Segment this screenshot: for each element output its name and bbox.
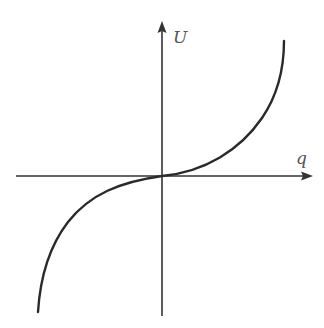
diagram-figure: U q <box>0 0 324 328</box>
q-axis-label: q <box>296 150 307 167</box>
u-axis-label: U <box>173 29 187 46</box>
plot-canvas <box>0 0 324 328</box>
